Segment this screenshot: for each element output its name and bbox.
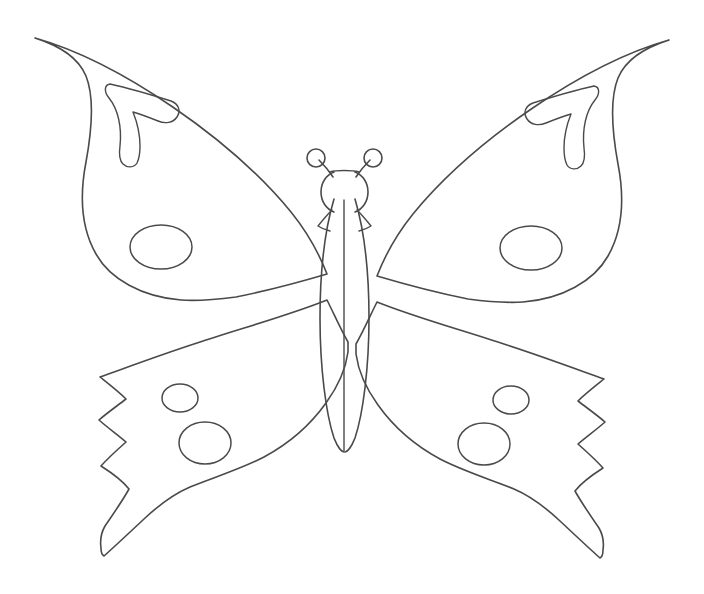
butterfly-illustration [0,0,704,594]
page-canvas [0,0,704,594]
